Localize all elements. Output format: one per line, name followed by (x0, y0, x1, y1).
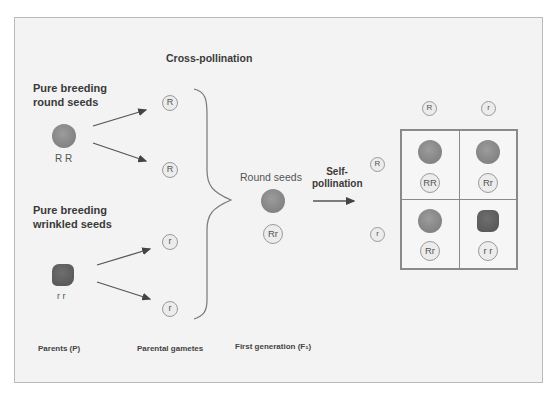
self-pollination-line2: pollination (312, 178, 362, 190)
footer-gametes-label: Parental gametes (137, 344, 203, 353)
arrow-icon (93, 143, 146, 161)
punnett-row-header-r: r (370, 227, 385, 242)
wrinkled-parent-label-line2: wrinkled seeds (33, 217, 112, 231)
round-seed-icon (52, 124, 76, 148)
wrinkled-seed-icon (52, 264, 74, 286)
f1-genotype: Rr (263, 224, 283, 244)
self-pollination-line1: Self- (312, 166, 362, 178)
gamete-r-2: r (162, 301, 178, 317)
round-parent-genotype: R R (55, 153, 72, 164)
wrinkled-parent-label: Pure breeding wrinkled seeds (33, 203, 112, 231)
brace-icon (194, 89, 231, 319)
punnett-cell-1-round-seed-icon (418, 140, 442, 164)
arrow-icon (93, 110, 146, 126)
punnett-divider-horizontal (402, 199, 516, 200)
punnett-col-header-R: R (422, 101, 437, 116)
punnett-row-header-R: R (370, 157, 385, 172)
punnett-cell-4-genotype: r r (478, 241, 498, 261)
punnett-cell-4-wrinkled-seed-icon (477, 210, 499, 232)
cross-pollination-title: Cross-pollination (166, 51, 252, 65)
f1-round-seed-icon (261, 189, 285, 213)
gamete-r-1: r (162, 234, 178, 250)
round-parent-label-line2: round seeds (33, 95, 107, 109)
wrinkled-parent-label-line1: Pure breeding (33, 203, 112, 217)
punnett-square: RR Rr Rr r r (400, 129, 518, 270)
punnett-col-header-r: r (481, 101, 496, 116)
wrinkled-parent-genotype: r r (57, 291, 66, 301)
arrow-icon (97, 249, 150, 265)
punnett-cell-3-round-seed-icon (418, 209, 442, 233)
round-parent-label-line1: Pure breeding (33, 81, 107, 95)
gamete-R-2: R (162, 162, 178, 178)
round-parent-label: Pure breeding round seeds (33, 81, 107, 109)
arrow-icon (97, 282, 150, 299)
footer-parents-label: Parents (P) (38, 344, 80, 353)
gamete-R-1: R (162, 95, 178, 111)
punnett-cell-2-genotype: Rr (478, 173, 498, 193)
f1-label: Round seeds (240, 171, 302, 183)
punnett-cell-2-round-seed-icon (476, 140, 500, 164)
footer-first-generation-label: First generation (F₁) (235, 342, 311, 351)
punnett-cell-3-genotype: Rr (420, 241, 440, 261)
punnett-cell-1-genotype: RR (420, 173, 440, 193)
self-pollination-label: Self- pollination (312, 166, 362, 190)
